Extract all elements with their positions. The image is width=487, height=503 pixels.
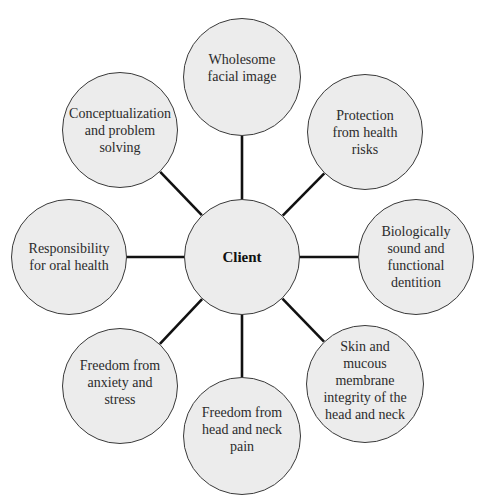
node-responsibility-for-oral-health: Responsibility for oral health	[11, 199, 127, 315]
node-label: Responsibility for oral health	[29, 240, 110, 274]
node-label: Freedom from anxiety and stress	[80, 357, 160, 408]
spoke-line	[160, 172, 202, 215]
node-biologically-sound-dentition: Biologically sound and functional dentit…	[358, 199, 474, 315]
node-wholesome-facial-image: Wholesome facial image	[183, 18, 301, 136]
node-label: Skin and mucous membrane integrity of th…	[323, 338, 406, 423]
node-skin-mucous-membrane-integrity: Skin and mucous membrane integrity of th…	[306, 325, 424, 443]
node-label: Freedom from head and neck pain	[202, 404, 282, 455]
node-label: Conceptualization and problem solving	[63, 105, 177, 156]
spoke-line	[282, 299, 324, 342]
node-freedom-from-head-neck-pain: Freedom from head and neck pain	[183, 377, 301, 495]
node-protection-from-health-risks: Protection from health risks	[307, 74, 423, 190]
spoke-line	[283, 173, 325, 215]
center-label: Client	[222, 249, 261, 266]
node-conceptualization-problem-solving: Conceptualization and problem solving	[62, 72, 178, 188]
spoke-line	[160, 299, 202, 344]
node-label: Protection from health risks	[333, 107, 398, 158]
node-freedom-from-anxiety-stress: Freedom from anxiety and stress	[62, 328, 178, 444]
node-label: Biologically sound and functional dentit…	[381, 223, 450, 291]
node-label: Wholesome facial image	[208, 51, 277, 85]
node-client-center: Client	[184, 199, 300, 315]
